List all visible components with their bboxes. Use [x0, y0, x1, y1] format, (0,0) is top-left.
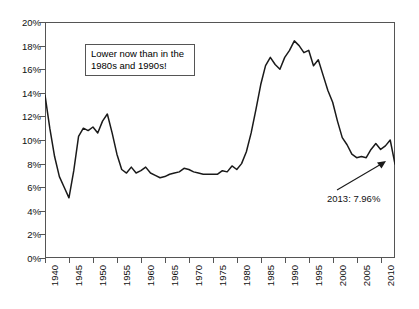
x-axis-tick-mark	[357, 258, 358, 263]
x-axis-tick-label: 1970	[193, 265, 204, 286]
x-axis-tick-mark	[117, 258, 118, 263]
x-axis-tick-mark	[309, 258, 310, 263]
x-axis-tick-label: 1950	[97, 265, 108, 286]
x-axis-tick-mark	[381, 258, 382, 263]
x-axis-tick-label: 2000	[337, 265, 348, 286]
y-axis: 0%2%4%6%8%10%12%14%16%18%20%	[0, 0, 41, 309]
x-axis-tick-label: 1975	[217, 265, 228, 286]
x-axis-tick-mark	[93, 258, 94, 263]
x-axis-tick-label: 2010	[385, 265, 396, 286]
callout-annotation-box: Lower now than in the 1980s and 1990s!	[85, 44, 195, 76]
x-axis-tick-label: 1985	[265, 265, 276, 286]
x-axis-tick-label: 2005	[361, 265, 372, 286]
endpoint-annotation-label: 2013: 7.96%	[327, 193, 380, 204]
x-axis-tick-label: 1940	[49, 265, 60, 286]
x-axis-tick-mark	[333, 258, 334, 263]
x-axis-tick-label: 1990	[289, 265, 300, 286]
callout-line-2: 1980s and 1990s!	[91, 60, 189, 72]
x-axis-tick-mark	[285, 258, 286, 263]
x-axis-tick-mark	[45, 258, 46, 263]
x-axis-tick-label: 1980	[241, 265, 252, 286]
x-axis-tick-label: 1965	[169, 265, 180, 286]
x-axis-tick-label: 1945	[73, 265, 84, 286]
x-axis-tick-mark	[189, 258, 190, 263]
x-axis-tick-label: 1955	[121, 265, 132, 286]
callout-line-1: Lower now than in the	[91, 48, 189, 60]
x-axis-tick-mark	[237, 258, 238, 263]
x-axis-tick-mark	[69, 258, 70, 263]
x-axis-tick-mark	[261, 258, 262, 263]
x-axis-tick-mark	[141, 258, 142, 263]
x-axis-tick-mark	[213, 258, 214, 263]
x-axis-tick-label: 1995	[313, 265, 324, 286]
line-chart: 0%2%4%6%8%10%12%14%16%18%20% 19401945195…	[0, 0, 419, 309]
x-axis-tick-label: 1960	[145, 265, 156, 286]
x-axis-tick-mark	[165, 258, 166, 263]
